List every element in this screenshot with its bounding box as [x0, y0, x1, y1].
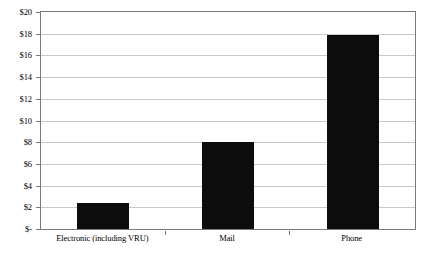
x-tick-label: Mail — [219, 234, 235, 243]
x-tick-label: Phone — [341, 234, 362, 243]
y-tick-label: $20 — [20, 8, 32, 17]
plot-area — [40, 11, 416, 230]
bar — [77, 203, 129, 229]
x-tick-mark — [165, 231, 166, 235]
y-tick-label: $6 — [24, 160, 32, 169]
y-tick-label: $8 — [24, 138, 32, 147]
y-tick-label: $10 — [20, 116, 32, 125]
y-tick-label: $- — [25, 225, 32, 234]
bar — [202, 142, 254, 229]
y-tick-label: $14 — [20, 73, 32, 82]
bar-chart-figure: $-$2$4$6$8$10$12$14$16$18$20 Electronic … — [0, 0, 429, 265]
caption-clip — [0, 257, 429, 265]
y-axis: $-$2$4$6$8$10$12$14$16$18$20 — [0, 11, 36, 229]
x-tick-mark — [289, 231, 290, 235]
x-axis: Electronic (including VRU)MailPhone — [40, 231, 415, 247]
y-tick-label: $12 — [20, 95, 32, 104]
x-tick-label: Electronic (including VRU) — [56, 234, 148, 243]
bar — [327, 35, 379, 229]
y-tick-label: $16 — [20, 51, 32, 60]
y-tick-label: $2 — [24, 203, 32, 212]
y-tick-label: $18 — [20, 29, 32, 38]
y-tick-label: $4 — [24, 181, 32, 190]
